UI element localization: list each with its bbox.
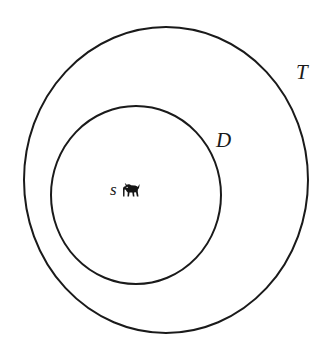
outer-set-circle-T [24, 27, 308, 333]
venn-diagram-canvas [0, 0, 331, 353]
inner-set-label: D [216, 130, 231, 151]
set-diagram: T D s [0, 0, 331, 353]
set-element-s: s [110, 181, 141, 198]
dog-icon [123, 182, 141, 198]
element-label-s: s [110, 181, 117, 198]
outer-set-label: T [296, 62, 308, 83]
